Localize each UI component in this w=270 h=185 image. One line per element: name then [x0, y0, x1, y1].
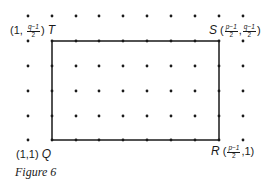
label-S: S ( p−1 2 , q−1 2 )	[209, 24, 261, 38]
point-name-S: S	[209, 23, 217, 37]
lattice-point	[122, 90, 125, 93]
R-coord-suffix: ,1)	[241, 145, 254, 157]
lattice-point	[27, 90, 30, 93]
lattice-point	[146, 15, 149, 18]
lattice-point	[170, 90, 173, 93]
lattice-point	[98, 15, 101, 18]
lattice-point	[194, 115, 197, 118]
T-coord-prefix: (1,	[10, 24, 23, 36]
T-frac-den: 2	[27, 32, 40, 39]
T-coord-suffix: )	[41, 24, 45, 36]
lattice-point	[51, 15, 54, 18]
R-frac-den: 2	[227, 153, 240, 160]
lattice-point	[146, 115, 149, 118]
lattice-point	[242, 65, 245, 68]
lattice-point	[75, 15, 78, 18]
lattice-point	[98, 90, 101, 93]
lattice-point	[170, 65, 173, 68]
R-fraction: p−1 2	[227, 145, 240, 159]
lattice-point	[218, 15, 221, 18]
lattice-point	[242, 115, 245, 118]
figure-caption: Figure 6	[15, 165, 56, 180]
S-fraction-1: p−1 2	[225, 24, 238, 38]
S-frac1-den: 2	[225, 32, 238, 39]
lattice-point	[170, 15, 173, 18]
T-fraction: q−1 2	[27, 24, 40, 38]
lattice-point	[194, 90, 197, 93]
lattice-point	[146, 90, 149, 93]
lattice-point	[27, 15, 30, 18]
lattice-point	[194, 65, 197, 68]
lattice-point	[75, 65, 78, 68]
lattice-point	[98, 65, 101, 68]
lattice-point	[27, 40, 30, 43]
lattice-point	[194, 15, 197, 18]
Q-coord: (1,1)	[16, 148, 39, 160]
lattice-point	[242, 40, 245, 43]
S-sep: ,	[239, 24, 242, 36]
S-fraction-2: q−1 2	[243, 24, 256, 38]
S-coord-prefix: (	[220, 24, 224, 36]
lattice-point	[75, 90, 78, 93]
point-name-R: R	[211, 144, 220, 158]
lattice-point	[146, 65, 149, 68]
point-name-Q: Q	[42, 147, 51, 161]
lattice-point	[122, 15, 125, 18]
lattice-point	[27, 65, 30, 68]
point-name-T: T	[48, 23, 55, 37]
lattice-point	[242, 90, 245, 93]
label-Q: (1,1) Q	[16, 148, 51, 160]
S-frac2-den: 2	[243, 32, 256, 39]
label-T: (1, q−1 2 ) T	[10, 24, 55, 38]
lattice-point	[27, 139, 30, 142]
label-R: R ( p−1 2 ,1)	[211, 145, 254, 159]
lattice-point	[27, 115, 30, 118]
lattice-point	[170, 115, 173, 118]
S-coord-suffix: )	[257, 24, 261, 36]
lattice-point	[98, 115, 101, 118]
lattice-point	[242, 15, 245, 18]
lattice-point	[75, 115, 78, 118]
lattice-point	[122, 65, 125, 68]
lattice-point	[242, 139, 245, 142]
lattice-point	[122, 115, 125, 118]
R-coord-prefix: (	[223, 145, 227, 157]
